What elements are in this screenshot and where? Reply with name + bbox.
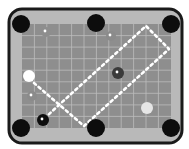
faint-ball-3[interactable] (27, 91, 37, 101)
pool-table-scene (0, 0, 189, 149)
dark-ball[interactable] (112, 67, 124, 79)
faint-ball-2[interactable] (106, 31, 116, 41)
faint-ball-1[interactable] (41, 27, 51, 37)
black-ball[interactable] (37, 114, 49, 126)
pocket-top-left (12, 15, 30, 33)
pocket-bottom-middle (87, 119, 105, 137)
pocket-bottom-right (162, 119, 180, 137)
pocket-bottom-left (12, 119, 30, 137)
light-ball[interactable] (141, 102, 153, 114)
pocket-top-right (162, 15, 180, 33)
cue-ball[interactable] (23, 70, 35, 82)
pocket-top-middle (87, 14, 105, 32)
